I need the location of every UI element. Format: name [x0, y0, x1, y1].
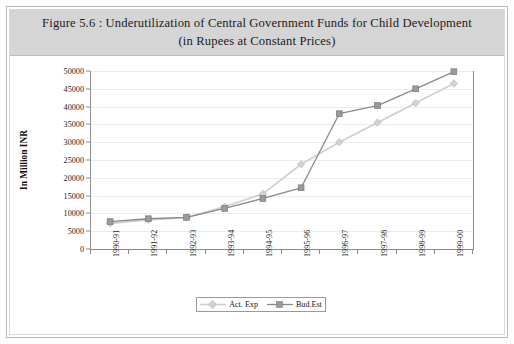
legend-item-act-exp: Act. Exp: [200, 300, 258, 309]
data-point-marker-square: [336, 111, 342, 117]
x-axis-tick-mark: [205, 250, 206, 254]
y-axis-tick-mark: [86, 195, 90, 196]
y-axis-tick-label: 20000: [64, 173, 84, 182]
x-axis-tick-label: 1990-91: [112, 230, 121, 257]
data-point-marker-diamond: [374, 119, 381, 126]
x-axis-tick-label: 1992-93: [189, 230, 198, 257]
x-axis-tick-mark: [472, 250, 473, 254]
x-axis-tick-mark: [319, 250, 320, 254]
data-point-marker-square: [184, 214, 190, 220]
y-axis-tick-mark: [86, 142, 90, 143]
x-axis-tick-mark: [90, 250, 91, 254]
series-plot: [91, 71, 473, 249]
data-point-marker-diamond: [336, 139, 343, 146]
data-point-marker-square: [451, 69, 457, 75]
y-axis-tick-mark: [86, 231, 90, 232]
data-point-marker-square: [107, 219, 113, 225]
y-axis-tick-mark: [86, 106, 90, 107]
y-axis-tick-mark: [86, 71, 90, 72]
y-axis-tick-label: 40000: [64, 102, 84, 111]
y-axis-title: In Million INR: [19, 130, 29, 190]
data-point-marker-square: [413, 86, 419, 92]
legend-label-act-exp: Act. Exp: [229, 300, 258, 309]
legend-line-act-exp-icon: [200, 300, 226, 309]
y-axis-tick-mark: [86, 160, 90, 161]
series-line: [110, 72, 454, 222]
x-axis-tick-label: 1999-00: [456, 230, 465, 257]
x-axis-tick-label: 1991-92: [150, 230, 159, 257]
figure-title-band: Figure 5.6 : Underutilization of Central…: [10, 9, 504, 56]
y-axis-tick-label: 0: [80, 245, 84, 254]
y-axis-tick-mark: [86, 88, 90, 89]
x-axis-tick-mark: [396, 250, 397, 254]
y-axis-tick-label: 50000: [64, 67, 84, 76]
y-axis-tick-mark: [86, 177, 90, 178]
x-axis-tick-label: 1996-97: [341, 230, 350, 257]
data-point-marker-square: [375, 103, 381, 109]
y-axis-tick-mark: [86, 213, 90, 214]
y-axis-tick-label: 5000: [68, 227, 84, 236]
legend-item-bud-est: Bud.Est: [267, 300, 322, 309]
x-axis-tick-label: 1998-99: [418, 230, 427, 257]
series-line: [110, 83, 454, 223]
y-axis-tick-label: 35000: [64, 120, 84, 129]
x-axis-tick-mark: [357, 250, 358, 254]
y-axis-tick-label: 45000: [64, 84, 84, 93]
figure-title-line-2: (in Rupees at Constant Prices): [179, 32, 336, 50]
series-bud-est: [107, 69, 457, 225]
x-axis-tick-label: 1997-98: [380, 230, 389, 257]
data-point-marker-diamond: [450, 80, 457, 87]
legend-line-bud-est-icon: [267, 300, 293, 309]
y-axis-tick-mark: [86, 124, 90, 125]
x-axis-tick-label: 1995-96: [303, 230, 312, 257]
y-axis-tick-label: 30000: [64, 138, 84, 147]
plot-area: [90, 71, 474, 250]
data-point-marker-square: [145, 216, 151, 222]
x-axis-tick-mark: [243, 250, 244, 254]
data-point-marker-diamond: [412, 99, 419, 106]
figure-page: Figure 5.6 : Underutilization of Central…: [0, 0, 514, 344]
y-axis-tick-label: 10000: [64, 209, 84, 218]
x-axis-tick-mark: [166, 250, 167, 254]
data-point-marker-square: [260, 196, 266, 202]
y-axis-tick-label: 15000: [64, 191, 84, 200]
x-axis-tick-label: 1994-95: [265, 230, 274, 257]
series-act-exp: [106, 80, 457, 227]
chart-legend: Act. Exp Bud.Est: [196, 297, 326, 312]
x-axis-tick-mark: [434, 250, 435, 254]
x-axis-tick-label: 1993-94: [227, 230, 236, 257]
x-axis-tick-mark: [281, 250, 282, 254]
data-point-marker-square: [298, 185, 304, 191]
figure-title-line-1: Figure 5.6 : Underutilization of Central…: [42, 14, 472, 32]
chart-area: In Million INR 0500010000150002000025000…: [10, 57, 504, 334]
legend-label-bud-est: Bud.Est: [296, 300, 322, 309]
y-axis-tick-label: 25000: [64, 156, 84, 165]
x-axis-tick-mark: [128, 250, 129, 254]
data-point-marker-square: [222, 206, 228, 212]
